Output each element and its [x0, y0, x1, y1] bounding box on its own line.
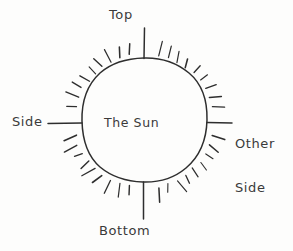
sun-ray	[159, 41, 163, 55]
sun-ray	[212, 136, 225, 140]
sun-ray	[168, 46, 171, 58]
sun-ray	[201, 75, 208, 80]
sun-ray	[72, 82, 81, 87]
sun-ray	[118, 183, 120, 197]
sun-ray	[186, 175, 190, 183]
leader-line-other-side	[207, 123, 232, 124]
label-other-side-line1: Other	[235, 137, 275, 152]
sun-ray	[81, 161, 89, 169]
sun-ray	[74, 154, 82, 157]
sun-ray	[201, 163, 207, 170]
sun-ray	[82, 168, 95, 175]
sun-ray	[66, 92, 79, 97]
sun-ray	[104, 180, 110, 193]
sun-ray	[209, 97, 221, 98]
sun-ray	[94, 59, 102, 66]
sun-ray	[89, 67, 95, 74]
diagram-canvas: Top Bottom Side Other Side The Sun	[0, 0, 293, 251]
sun-ray	[64, 145, 76, 152]
label-top: Top	[109, 8, 133, 22]
label-other-side: Other Side	[235, 108, 275, 224]
sun-ray	[92, 176, 101, 183]
leader-line-side	[48, 123, 82, 124]
label-side: Side	[12, 115, 43, 129]
leader-line-top	[144, 28, 145, 59]
sun-ray	[177, 51, 179, 62]
sun-ray	[64, 135, 76, 141]
sun-ray	[104, 50, 111, 63]
sun-ray	[209, 145, 218, 152]
sun-ray	[129, 44, 130, 55]
sun-ray	[185, 59, 187, 68]
sun-ray	[206, 85, 216, 89]
label-other-side-line2: Side	[235, 181, 275, 196]
sun-ray	[206, 154, 213, 159]
sun-ray	[159, 188, 160, 202]
sun-ray	[178, 181, 187, 192]
label-sun-center: The Sun	[104, 116, 159, 129]
sun-ray	[194, 66, 200, 73]
sun-ray	[80, 76, 90, 81]
sun-ray	[192, 168, 198, 177]
sun-ray	[212, 107, 224, 108]
label-bottom: Bottom	[99, 224, 150, 238]
